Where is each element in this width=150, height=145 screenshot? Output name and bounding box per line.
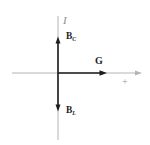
phasor-diagram-canvas (0, 0, 150, 145)
label-bc: BC (66, 32, 76, 42)
label-vertical-axis-tick: I (63, 15, 67, 26)
vector-bl (56, 73, 61, 112)
vector-g (58, 70, 107, 75)
vector-bc-arrowhead-icon (56, 37, 61, 44)
horizontal-axis-arrowhead-icon (135, 70, 142, 75)
plus-mark-icon: + (122, 77, 128, 87)
label-bl: BL (66, 106, 76, 116)
label-bc-subscript: C (72, 36, 76, 42)
vector-bl-arrowhead-icon (56, 105, 61, 112)
label-bl-subscript: L (72, 110, 76, 116)
label-g: G (95, 56, 103, 66)
vector-g-arrowhead-icon (100, 70, 108, 75)
vector-bc (56, 37, 61, 74)
phasor-diagram-figure: BC BL G I + (0, 0, 150, 145)
